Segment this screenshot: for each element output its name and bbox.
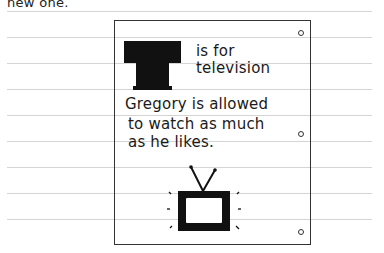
punch-hole-icon (298, 30, 304, 36)
television-icon (165, 161, 245, 236)
body-line-3: as he likes. (128, 135, 214, 150)
body-line-2: to watch as much (128, 117, 265, 132)
body-line-1: Gregory is allowed (125, 97, 268, 112)
big-letter-t-icon (123, 40, 183, 92)
alphabet-card: T is for television Gregory is allowed t… (114, 20, 311, 245)
punch-hole-icon (298, 229, 304, 235)
heading-line-2: television (196, 61, 270, 76)
heading-line-1: is for (196, 44, 235, 59)
punch-hole-icon (298, 131, 304, 137)
page-text: new one. (7, 0, 69, 10)
ruled-line (7, 11, 372, 12)
